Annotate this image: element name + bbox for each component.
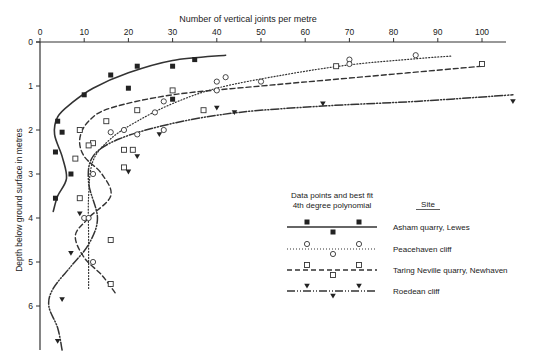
data-points — [53, 53, 516, 344]
filled-square-marker — [170, 97, 175, 102]
open-circle-marker — [161, 99, 166, 104]
open-circle-marker — [330, 251, 335, 256]
legend-label: Asham quarry, Lewes — [393, 223, 470, 232]
filled-square-marker — [68, 172, 73, 177]
open-circle-marker — [90, 259, 95, 264]
open-circle-marker — [135, 132, 140, 137]
filled-square-marker — [55, 119, 60, 124]
open-square-marker — [108, 282, 113, 287]
y-tick-label: 2 — [28, 125, 33, 135]
filled-square-marker — [331, 230, 336, 235]
fit-curves — [49, 55, 513, 350]
filled-square-marker — [108, 73, 113, 78]
filled-square-marker — [170, 64, 175, 69]
legend-label: Peacehaven cliff — [393, 245, 452, 254]
joint-density-chart: 01020304050607080901000123456 Data point… — [0, 0, 536, 362]
open-circle-marker — [413, 53, 418, 58]
legend-header-site: Site — [421, 200, 435, 209]
open-square-marker — [135, 108, 140, 113]
open-square-marker — [201, 108, 206, 113]
open-circle-marker — [152, 110, 157, 115]
open-circle-marker — [214, 79, 219, 84]
filled-square-marker — [305, 220, 310, 225]
x-tick-label: 30 — [168, 27, 178, 37]
open-circle-marker — [347, 61, 352, 66]
filled-square-marker — [192, 57, 197, 62]
filled-triangle-marker — [55, 339, 61, 344]
open-circle-marker — [121, 127, 126, 132]
filled-triangle-marker — [510, 99, 516, 104]
legend-label: Roedean cliff — [393, 287, 440, 296]
open-circle-marker — [86, 215, 91, 220]
open-circle-marker — [90, 171, 95, 176]
open-square-marker — [121, 165, 126, 170]
open-square-marker — [334, 64, 339, 69]
filled-triangle-marker — [214, 106, 220, 111]
open-circle-marker — [304, 241, 309, 246]
open-square-marker — [480, 62, 485, 67]
filled-triangle-marker — [126, 170, 132, 175]
filled-triangle-marker — [330, 294, 336, 299]
y-tick-label: 5 — [28, 257, 33, 267]
open-circle-marker — [108, 130, 113, 135]
x-tick-label: 10 — [79, 27, 89, 37]
open-circle-marker — [223, 75, 228, 80]
filled-square-marker — [53, 196, 58, 201]
filled-triangle-marker — [77, 211, 83, 216]
open-square-marker — [305, 263, 310, 268]
x-tick-label: 90 — [433, 27, 443, 37]
open-square-marker — [108, 238, 113, 243]
x-tick-label: 40 — [212, 27, 222, 37]
filled-square-marker — [135, 64, 140, 69]
open-square-marker — [121, 147, 126, 152]
open-square-marker — [170, 88, 175, 93]
y-tick-label: 6 — [28, 301, 33, 311]
filled-triangle-marker — [157, 132, 163, 137]
filled-triangle-marker — [68, 251, 74, 256]
filled-square-marker — [60, 130, 65, 135]
filled-square-marker — [82, 92, 87, 97]
axes: 01020304050607080901000123456 — [28, 27, 506, 350]
filled-triangle-marker — [59, 297, 65, 302]
x-tick-label: 60 — [300, 27, 310, 37]
open-circle-marker — [258, 79, 263, 84]
open-square-marker — [86, 143, 91, 148]
x-tick-label: 20 — [124, 27, 134, 37]
open-circle-marker — [161, 127, 166, 132]
open-circle-marker — [356, 241, 361, 246]
filled-square-marker — [53, 150, 58, 155]
x-tick-label: 80 — [389, 27, 399, 37]
x-axis-label: Number of vertical joints per metre — [179, 14, 317, 24]
x-tick-label: 70 — [345, 27, 355, 37]
legend: Data points and best fit4th degree polyn… — [287, 191, 508, 299]
x-tick-label: 0 — [38, 27, 43, 37]
y-tick-label: 4 — [28, 213, 33, 223]
y-axis-label: Depth below ground surface in metres — [14, 128, 24, 272]
x-tick-label: 100 — [475, 27, 489, 37]
open-square-marker — [130, 147, 135, 152]
legend-header-left-line2: 4th degree polynomial — [293, 201, 372, 210]
y-tick-label: 0 — [28, 37, 33, 47]
filled-square-marker — [357, 220, 362, 225]
open-square-marker — [331, 273, 336, 278]
open-square-marker — [104, 119, 109, 124]
open-square-marker — [77, 128, 82, 133]
open-square-marker — [77, 196, 82, 201]
y-tick-label: 3 — [28, 169, 33, 179]
legend-label: Taring Neville quarry, Newhaven — [393, 266, 508, 275]
x-tick-label: 50 — [256, 27, 266, 37]
open-square-marker — [73, 156, 78, 161]
filled-triangle-marker — [134, 154, 140, 159]
open-circle-marker — [214, 88, 219, 93]
filled-triangle-marker — [356, 284, 362, 289]
y-tick-label: 1 — [28, 81, 33, 91]
fit-curve — [75, 66, 482, 293]
legend-header-left: Data points and best fit — [291, 191, 374, 200]
filled-square-marker — [126, 86, 131, 91]
open-square-marker — [357, 263, 362, 268]
filled-triangle-marker — [304, 284, 310, 289]
